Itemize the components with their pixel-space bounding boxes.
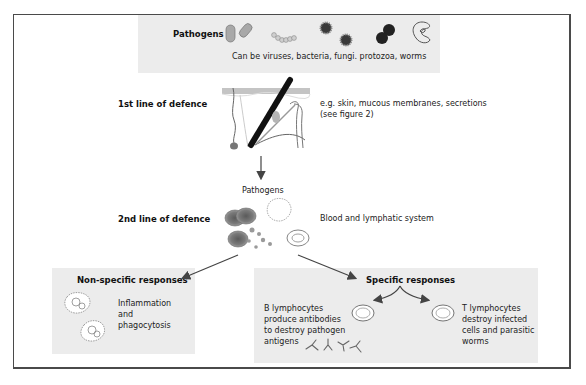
virus-icon [321, 23, 352, 46]
phagocyte-icon [65, 293, 105, 342]
skin-cross-section-icon [222, 80, 310, 150]
illustrations-layer [0, 0, 586, 385]
arrow-to-non-specific [183, 255, 238, 278]
arrow-to-t-cells [400, 286, 428, 300]
blood-cells-icon [225, 198, 309, 248]
t-lymphocyte-icon [432, 305, 454, 321]
b-lymphocyte-icon [352, 305, 374, 321]
protozoa-icon [413, 22, 430, 43]
arrow-to-b-cells [375, 286, 400, 300]
arrow-to-specific [298, 255, 355, 278]
cocci-chain-icon [272, 33, 297, 43]
fungi-spore-icon [376, 24, 395, 44]
phagocyte-blob [267, 198, 291, 221]
bacilli-icon [226, 22, 254, 42]
antibody-icon [306, 339, 361, 352]
